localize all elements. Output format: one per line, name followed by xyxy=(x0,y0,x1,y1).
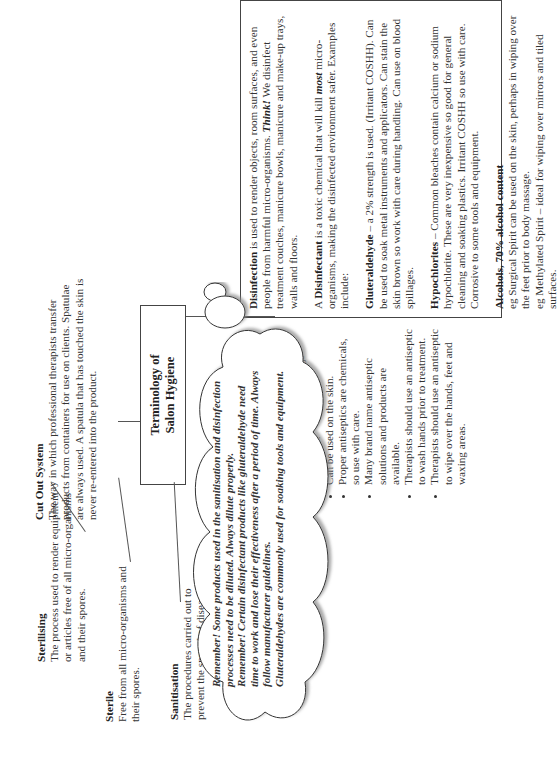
cloud-line-gluteraldehyde: Remember! Certain disinfectant products … xyxy=(235,367,273,687)
sterile-text: Free from all micro-organisms and their … xyxy=(116,566,141,722)
sterilising-term: Sterilising xyxy=(35,492,48,662)
sterilising-text: The process used to render equipment or … xyxy=(48,492,86,662)
disinfection-box: Disinfection is used to render objects, … xyxy=(240,0,502,318)
most-emphasis: most xyxy=(312,73,324,95)
list-item: Therapists should use an antiseptic to w… xyxy=(428,327,468,485)
page-title: Terminology of Salon Hygiene xyxy=(148,340,178,450)
sterilising: Sterilising The process used to render e… xyxy=(35,492,88,662)
list-item: Therapists should use an antiseptic to w… xyxy=(402,327,428,485)
connector-center-to-cutout xyxy=(118,421,140,422)
cut-out-system-term: Cut Out System xyxy=(33,270,46,520)
sterile: Sterile Free from all micro-organisms an… xyxy=(103,552,143,722)
list-item: Many brand name antiseptic solutions and… xyxy=(362,327,402,485)
hypochlorites-term: Hypochlorites xyxy=(428,242,440,309)
cloud-text: Remember! Some products used in the sani… xyxy=(210,367,285,687)
disinfection-section: Disinfection is used to render objects, … xyxy=(247,9,559,309)
central-title-box: Terminology of Salon Hygiene xyxy=(140,305,186,485)
list-item: Proper antiseptics are chemicals, so use… xyxy=(336,327,362,485)
surgical-spirit-text: eg Surgical Spirit can be used on the sk… xyxy=(506,16,531,309)
sterile-term: Sterile xyxy=(103,552,116,722)
think-emphasis: Think! xyxy=(260,100,272,132)
gluteraldehyde-term: Gluteraldehyde xyxy=(363,234,375,309)
cut-out-system: Cut Out System The way in which professi… xyxy=(33,270,99,520)
disinfectant-text: is a toxic chemical that will kill xyxy=(312,94,324,241)
methylated-spirit-text: eg Methylated Spirit – ideal for wiping … xyxy=(533,34,558,309)
cloud-line-dilute: Remember! Some products used in the sani… xyxy=(210,367,235,687)
cut-out-system-text: The way in which professional therapists… xyxy=(46,279,98,520)
alcohols-term: Alcohols, 70% alcohol content xyxy=(493,165,505,309)
cloud-line-soaking: Gluteraldehydes are commonly used for so… xyxy=(273,367,286,687)
connector-sterile xyxy=(118,478,131,562)
